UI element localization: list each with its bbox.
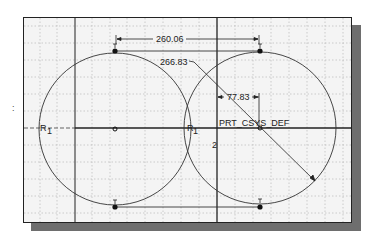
constraint-r1-left-sub: 1 [47, 126, 52, 136]
axis-marker: 2 [212, 140, 217, 150]
left-circle [39, 53, 191, 205]
constraint-r1-left: R [40, 123, 47, 133]
csys-label: PRT_CSYS_DEF [219, 118, 290, 128]
dim-radius-label: 266.83 [160, 57, 188, 67]
constraint-r1-mid-sub: 1 [193, 126, 198, 136]
sketch-drawing: 260.06 266.83 77.83 PRT_CSYS_DEF R 1 R 1… [0, 0, 377, 244]
dim-260-label: 260.06 [156, 34, 184, 44]
dim-77-label: 77.83 [227, 92, 250, 102]
